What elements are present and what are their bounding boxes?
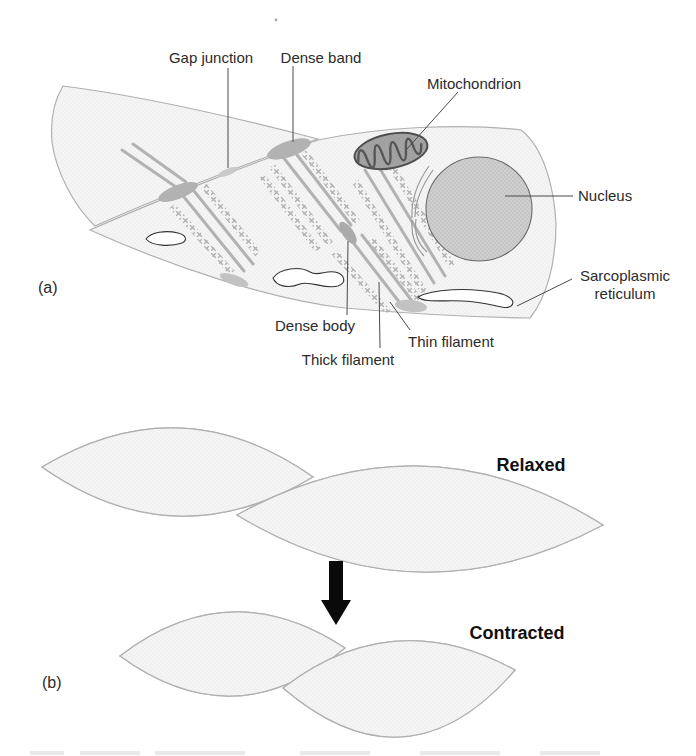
thick-filament-label: Thick filament (302, 351, 395, 368)
dense-band-label: Dense band (281, 49, 362, 66)
panel-b-label: (b) (42, 674, 62, 691)
sarcoplasmic-label-line1: Sarcoplasmic (580, 267, 671, 284)
panel-b: Relaxed Contracted (b) (7, 417, 646, 755)
relaxed-label: Relaxed (496, 455, 565, 475)
panel-a-label: (a) (38, 279, 58, 296)
gap-junction-label: Gap junction (169, 49, 253, 66)
nucleus-shape (426, 157, 532, 261)
thin-filament-label: Thin filament (408, 333, 495, 350)
down-arrow-icon (321, 561, 351, 625)
nucleus-label: Nucleus (578, 187, 632, 204)
sarcoplasmic-label-line2: reticulum (595, 285, 656, 302)
contracted-label: Contracted (469, 623, 564, 643)
cropped-caption-remnant (30, 751, 600, 755)
dense-body-label: Dense body (275, 317, 356, 334)
print-dot (275, 19, 278, 22)
smooth-muscle-figure: Gap junction Dense band Mitochondrion Nu… (0, 0, 696, 756)
mitochondrion-label: Mitochondrion (427, 75, 521, 92)
panel-a: Gap junction Dense band Mitochondrion Nu… (38, 19, 671, 368)
